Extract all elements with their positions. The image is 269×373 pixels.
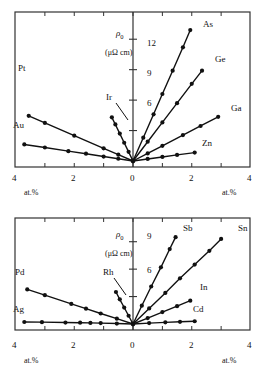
bottom-y-axis-units: (μΩ cm)	[105, 249, 132, 258]
data-point-Sn	[163, 291, 167, 295]
data-point-Sn	[219, 237, 223, 241]
data-point-Rh	[118, 297, 122, 301]
bottom-y-axis-label: ρ0	[116, 229, 124, 241]
data-point-In	[146, 316, 150, 320]
origin-point	[131, 322, 136, 327]
top-series-label-Au: Au	[13, 121, 24, 130]
data-point-Ir	[122, 141, 126, 145]
top-xtick-right-2: 2	[189, 174, 194, 183]
data-point-As	[188, 28, 192, 32]
data-point-In	[188, 299, 192, 303]
bottom-series-label-Rh: Rh	[103, 268, 114, 277]
data-point-In	[160, 310, 164, 314]
top-y-axis-units: (μΩ cm)	[105, 48, 132, 57]
chart-canvas	[0, 0, 269, 373]
data-point-Cd	[193, 319, 197, 323]
data-point-Ge	[146, 140, 150, 144]
data-point-Au	[102, 154, 106, 158]
data-point-Pt	[72, 134, 76, 138]
panel-bottom	[15, 218, 250, 330]
data-point-Ge	[190, 82, 194, 86]
data-point-Au	[43, 145, 47, 149]
data-point-As	[151, 112, 155, 116]
top-series-label-Ir: Ir	[106, 93, 112, 102]
data-point-Rh	[122, 305, 126, 309]
data-point-Ag	[88, 321, 92, 325]
bottom-xaxis-label-right: at.%	[222, 356, 236, 365]
top-xtick-right-4: 4	[247, 174, 252, 183]
data-point-Sn	[178, 276, 182, 280]
data-point-Pd	[69, 302, 73, 306]
data-point-Rh	[114, 290, 118, 294]
data-point-As	[171, 69, 175, 73]
data-point-As	[181, 45, 185, 49]
top-ytick-12: 12	[147, 39, 156, 48]
top-ytick-6: 6	[147, 99, 152, 108]
bottom-series-label-Sn: Sn	[238, 224, 248, 233]
panel-top	[15, 12, 250, 167]
data-point-Zn	[160, 155, 164, 159]
top-y-axis-label: ρ0	[116, 28, 124, 40]
top-xaxis-label-right: at.%	[222, 188, 236, 197]
data-point-Zn	[193, 150, 197, 154]
data-point-Sb	[140, 304, 144, 308]
data-point-Ga	[146, 151, 150, 155]
data-point-Ge	[175, 101, 179, 105]
data-point-Pt	[102, 146, 106, 150]
data-point-Pt	[27, 114, 31, 118]
data-point-Sb	[168, 247, 172, 251]
data-point-Ge	[160, 120, 164, 124]
bottom-ytick-9: 9	[147, 232, 152, 241]
bottom-series-label-In: In	[200, 283, 208, 292]
data-point-Sb	[159, 265, 163, 269]
data-point-Sn	[207, 249, 211, 253]
data-point-Ir	[118, 132, 122, 136]
bottom-ytick-6: 6	[147, 266, 152, 275]
data-point-Ag	[99, 321, 103, 325]
data-point-Au	[66, 149, 70, 153]
top-ytick-9: 9	[147, 69, 152, 78]
top-xtick-left-4: 4	[12, 174, 17, 183]
data-point-As	[160, 92, 164, 96]
data-point-Ga	[181, 133, 185, 137]
data-point-Ga	[216, 115, 220, 119]
bottom-xtick-right-2: 2	[189, 341, 194, 350]
data-point-Cd	[163, 320, 167, 324]
bottom-series-label-Ag: Ag	[13, 305, 24, 314]
data-point-Ag	[63, 320, 67, 324]
top-xtick-zero: 0	[130, 174, 135, 183]
data-point-As	[141, 136, 145, 140]
data-point-Pd	[43, 293, 47, 297]
top-series-label-Zn: Zn	[202, 139, 212, 148]
data-point-Zn	[146, 157, 150, 161]
top-xtick-left-2: 2	[71, 174, 76, 183]
data-point-Pt	[43, 121, 47, 125]
data-point-Ag	[40, 320, 44, 324]
bottom-xtick-left-4: 4	[12, 341, 17, 350]
leader-line-Ir	[116, 103, 128, 120]
data-point-Sn	[193, 262, 197, 266]
data-point-Au	[84, 152, 88, 156]
top-series-label-As: As	[203, 20, 213, 29]
data-point-Pt	[116, 153, 120, 157]
bottom-xtick-zero: 0	[130, 341, 135, 350]
data-point-Sb	[173, 235, 177, 239]
bottom-xtick-right-4: 4	[247, 341, 252, 350]
top-series-label-Pt: Pt	[18, 64, 26, 73]
bottom-series-label-Cd: Cd	[193, 305, 204, 314]
data-point-Rh	[126, 314, 130, 318]
data-point-Zn	[175, 153, 179, 157]
data-point-Au	[22, 142, 26, 146]
data-point-Au	[116, 157, 120, 161]
top-series-label-Ge: Ge	[215, 55, 226, 64]
top-xaxis-label-left: at.%	[24, 188, 38, 197]
data-point-Pd	[84, 307, 88, 311]
origin-point	[131, 159, 136, 164]
figure-resistivity-dilute-alloys: ρ0 (μΩ cm) 12 9 6 Pt Au Ir As Ge Ga Zn 4…	[0, 0, 269, 373]
bottom-xaxis-label-left: at.%	[24, 356, 38, 365]
data-point-Pd	[115, 317, 119, 321]
data-point-Cd	[178, 320, 182, 324]
data-point-Ge	[200, 69, 204, 73]
data-point-In	[175, 304, 179, 308]
bottom-series-label-Sb: Sb	[183, 224, 193, 233]
